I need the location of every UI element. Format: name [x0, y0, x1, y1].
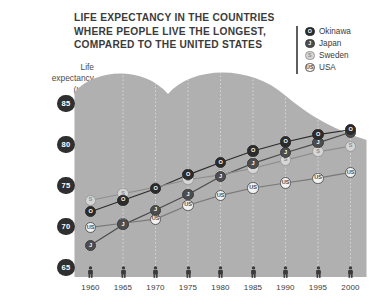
data-point-sweden-2000[interactable]: S [345, 141, 356, 152]
y-axis-tick-85: 85 [57, 95, 75, 113]
data-point-okinawa-1990[interactable]: O [280, 136, 291, 147]
data-point-japan-1960[interactable]: J [85, 240, 96, 251]
x-axis-tick-1965: 1965 [108, 283, 138, 292]
y-axis-tick-80: 80 [57, 136, 75, 154]
data-point-usa-2000[interactable]: US [345, 167, 356, 178]
x-axis-tick-1980: 1980 [206, 283, 236, 292]
data-point-japan-1985[interactable]: J [247, 158, 258, 169]
data-point-usa-1990[interactable]: US [280, 177, 291, 188]
x-axis-tick-1970: 1970 [141, 283, 171, 292]
x-axis-person-icon-2000 [347, 266, 354, 278]
data-point-usa-1975[interactable]: US [182, 200, 193, 211]
x-axis-tick-1990: 1990 [271, 283, 301, 292]
x-axis-tick-1985: 1985 [238, 283, 268, 292]
chart-canvas: LIFE EXPECTANCY IN THE COUNTRIES WHERE P… [0, 0, 382, 307]
x-axis-person-icon-1985 [250, 266, 257, 278]
plot-area [0, 0, 382, 307]
data-point-okinawa-1975[interactable]: O [182, 169, 193, 180]
data-point-okinawa-1985[interactable]: O [247, 145, 258, 156]
x-axis-person-icon-1980 [217, 266, 224, 278]
y-axis-tick-70: 70 [57, 218, 75, 236]
y-axis-tick-75: 75 [57, 177, 75, 195]
data-point-usa-1985[interactable]: US [247, 182, 258, 193]
x-axis-tick-1960: 1960 [76, 283, 106, 292]
data-point-usa-1980[interactable]: US [215, 190, 226, 201]
x-axis-person-icon-1990 [282, 266, 289, 278]
data-point-okinawa-1995[interactable]: O [312, 129, 323, 140]
x-axis-person-icon-1965 [120, 266, 127, 278]
data-point-japan-1970[interactable]: J [150, 205, 161, 216]
x-axis-person-icon-1995 [315, 266, 322, 278]
data-point-japan-1975[interactable]: J [182, 189, 193, 200]
data-point-usa-1960[interactable]: US [85, 222, 96, 233]
x-axis-tick-1975: 1975 [173, 283, 203, 292]
x-axis-tick-2000: 2000 [336, 283, 366, 292]
data-point-sweden-1960[interactable]: S [85, 195, 96, 206]
data-point-okinawa-1965[interactable]: O [117, 195, 128, 206]
data-point-usa-1995[interactable]: US [312, 173, 323, 184]
data-point-japan-1980[interactable]: J [215, 171, 226, 182]
x-axis-person-icon-1970 [152, 266, 159, 278]
x-axis-person-icon-1960 [87, 266, 94, 278]
y-axis-tick-65: 65 [57, 259, 75, 277]
data-point-japan-1965[interactable]: J [117, 219, 128, 230]
x-axis-tick-1995: 1995 [303, 283, 333, 292]
x-axis-person-icon-1975 [185, 266, 192, 278]
